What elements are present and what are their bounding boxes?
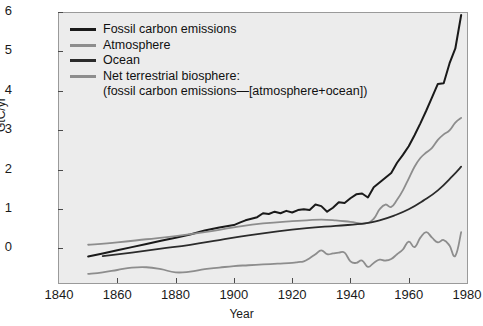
y-tick-mark (58, 170, 63, 171)
legend-swatch (70, 59, 96, 62)
x-axis-label: Year (0, 307, 483, 321)
x-tick-label: 1980 (437, 288, 483, 301)
legend-swatch (70, 75, 96, 78)
y-tick-mark (58, 130, 63, 131)
x-tick-mark (350, 278, 351, 283)
legend-label: Ocean (103, 53, 140, 69)
legend-label-continuation: (fossil carbon emissions—[atmosphere+oce… (103, 84, 367, 100)
y-tick-label: 1 (0, 201, 12, 214)
x-tick-mark (176, 278, 177, 283)
y-tick-mark (58, 12, 63, 13)
y-tick-label: 2 (0, 162, 12, 175)
x-tick-label: 1940 (320, 288, 380, 301)
x-tick-mark (117, 278, 118, 283)
y-tick-mark (58, 51, 63, 52)
y-tick-label: 4 (0, 83, 12, 96)
x-tick-mark (292, 278, 293, 283)
chart-legend: Fossil carbon emissionsAtmosphereOceanNe… (70, 22, 367, 100)
legend-label: Atmosphere (103, 38, 170, 54)
x-tick-label: 1900 (204, 288, 264, 301)
legend-item: Ocean (70, 53, 367, 69)
y-tick-label: 0 (0, 240, 12, 253)
y-tick-mark (58, 248, 63, 249)
x-tick-label: 1960 (379, 288, 439, 301)
legend-item: Fossil carbon emissions (70, 22, 367, 38)
legend-label: Fossil carbon emissions (103, 22, 236, 38)
chart-figure: 0123456 18401860188019001920194019601980… (0, 0, 483, 326)
legend-item: Atmosphere (70, 38, 367, 54)
series-line (88, 118, 461, 245)
legend-item: Net terrestrial biosphere: (70, 69, 367, 85)
x-tick-mark (234, 278, 235, 283)
x-tick-label: 1840 (29, 288, 89, 301)
legend-swatch (70, 28, 96, 31)
series-line (88, 232, 461, 274)
y-tick-label: 5 (0, 43, 12, 56)
y-axis-label: GtC/yr (0, 97, 8, 132)
y-tick-mark (58, 91, 63, 92)
x-tick-label: 1880 (146, 288, 206, 301)
legend-label: Net terrestrial biosphere: (103, 69, 240, 85)
y-tick-mark (58, 209, 63, 210)
x-tick-label: 1920 (262, 288, 322, 301)
x-tick-mark (409, 278, 410, 283)
y-tick-label: 6 (0, 4, 12, 17)
x-tick-label: 1860 (87, 288, 147, 301)
legend-swatch (70, 44, 96, 47)
